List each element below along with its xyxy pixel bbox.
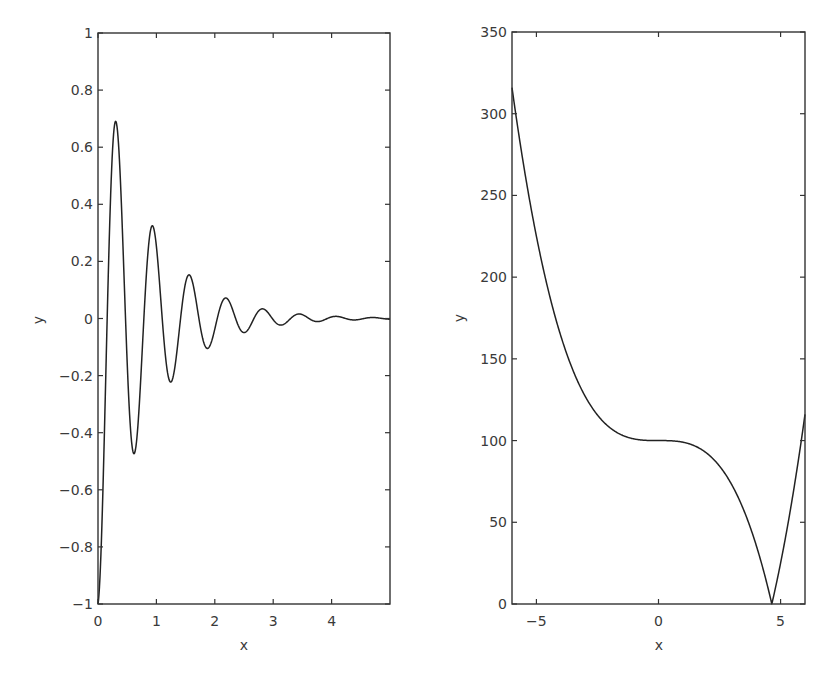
x-tick-label: 2	[210, 613, 219, 629]
figure: 01234−1−0.8−0.6−0.4−0.200.20.40.60.81 x …	[0, 0, 830, 679]
left-plot-curve	[98, 121, 390, 604]
left-plot-damped-oscillation: 01234−1−0.8−0.6−0.4−0.200.20.40.60.81 x …	[30, 25, 390, 653]
x-tick-label: 1	[152, 613, 161, 629]
y-tick-label: 0.4	[71, 196, 93, 212]
right-plot-curve	[512, 88, 805, 604]
y-tick-label: −0.4	[59, 425, 93, 441]
y-tick-label: 250	[480, 187, 507, 203]
y-tick-label: −1	[72, 596, 93, 612]
right-plot-tick-labels: −505050100150200250300350	[480, 24, 785, 629]
x-tick-label: 0	[654, 613, 663, 629]
y-tick-label: 50	[489, 514, 507, 530]
y-tick-label: 1	[84, 25, 93, 41]
right-plot-y-axis-label: y	[451, 314, 467, 322]
x-tick-label: 4	[327, 613, 336, 629]
y-tick-label: 0.2	[71, 253, 93, 269]
right-plot-abs-cubic: −505050100150200250300350 x y	[451, 24, 805, 653]
y-tick-label: 350	[480, 24, 507, 40]
y-tick-label: 100	[480, 433, 507, 449]
y-tick-label: 0.8	[71, 82, 93, 98]
y-tick-label: −0.2	[59, 368, 93, 384]
x-tick-label: 5	[776, 613, 785, 629]
y-tick-label: 0	[498, 596, 507, 612]
left-plot-tick-labels: 01234−1−0.8−0.6−0.4−0.200.20.40.60.81	[59, 25, 336, 629]
y-tick-label: 300	[480, 106, 507, 122]
right-plot-x-axis-label: x	[655, 637, 663, 653]
y-tick-label: 150	[480, 351, 507, 367]
y-tick-label: −0.6	[59, 482, 93, 498]
y-tick-label: −0.8	[59, 539, 93, 555]
y-tick-label: 200	[480, 269, 507, 285]
y-tick-label: 0.6	[71, 139, 93, 155]
left-plot-x-axis-label: x	[240, 637, 248, 653]
x-tick-label: −5	[526, 613, 547, 629]
x-tick-label: 0	[94, 613, 103, 629]
x-tick-label: 3	[269, 613, 278, 629]
y-tick-label: 0	[84, 311, 93, 327]
left-plot-y-axis-label: y	[30, 316, 46, 324]
